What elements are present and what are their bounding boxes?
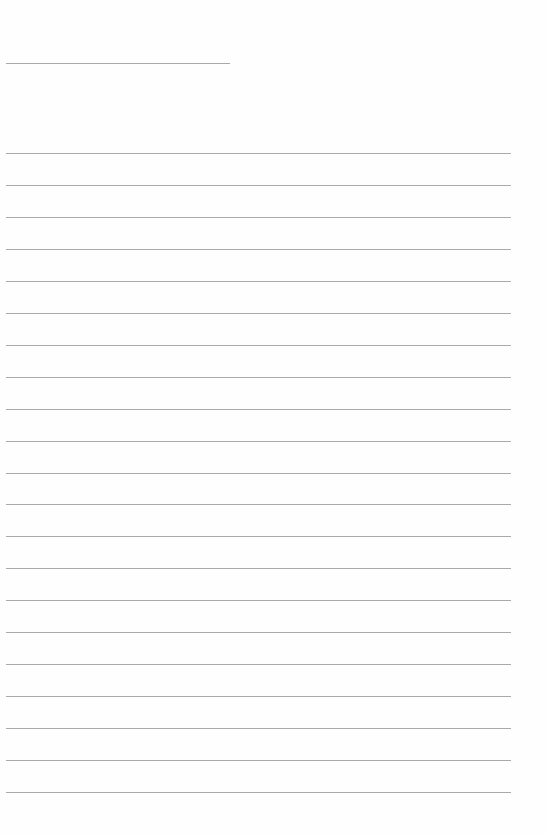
ruled-line (6, 409, 511, 410)
ruled-line (6, 728, 511, 729)
ruled-line (6, 568, 511, 569)
ruled-line (6, 536, 511, 537)
ruled-line (6, 217, 511, 218)
ruled-line (6, 600, 511, 601)
ruled-line (6, 281, 511, 282)
ruled-line (6, 504, 511, 505)
ruled-line (6, 377, 511, 378)
ruled-line (6, 313, 511, 314)
ruled-line (6, 664, 511, 665)
ruled-line (6, 632, 511, 633)
ruled-line (6, 185, 511, 186)
ruled-line (6, 792, 511, 793)
ruled-line (6, 760, 511, 761)
ruled-line (6, 345, 511, 346)
ruled-line (6, 696, 511, 697)
ruled-line (6, 153, 511, 154)
ruled-line (6, 441, 511, 442)
ruled-lines (0, 0, 546, 837)
ruled-line (6, 473, 511, 474)
lined-page (0, 0, 546, 837)
ruled-line (6, 249, 511, 250)
